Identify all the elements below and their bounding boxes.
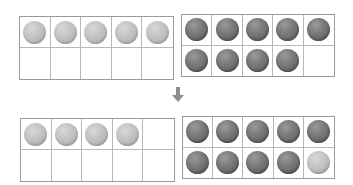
light-counter-icon	[115, 21, 138, 44]
arrow-down-icon	[172, 87, 184, 103]
dark-counter-icon	[276, 18, 299, 41]
frame-cell	[82, 119, 113, 150]
dark-counter-icon	[216, 18, 239, 41]
frame-cell	[212, 46, 242, 77]
dark-counter-icon	[186, 120, 209, 143]
frame-cell	[183, 117, 213, 148]
frame-cell	[243, 46, 273, 77]
frame-cell	[213, 117, 243, 148]
light-counter-icon	[23, 21, 46, 44]
dark-counter-icon	[276, 49, 299, 72]
frame-cell	[113, 119, 144, 150]
dark-counter-icon	[186, 151, 209, 174]
ten-frame-bottom-right	[182, 116, 335, 179]
frame-cell	[52, 119, 83, 150]
dark-counter-icon	[277, 151, 300, 174]
frame-cell	[274, 148, 304, 179]
frame-cell	[20, 48, 51, 79]
ten-frame-top-left	[19, 16, 174, 80]
frame-cell	[113, 150, 144, 181]
frame-cell	[243, 15, 273, 46]
frame-cell	[81, 48, 112, 79]
frame-cell	[81, 17, 112, 48]
frame-cell	[142, 48, 173, 79]
frame-cell	[304, 46, 334, 77]
light-counter-icon	[116, 123, 139, 146]
dark-counter-icon	[246, 18, 269, 41]
frame-cell	[304, 15, 334, 46]
frame-cell	[82, 150, 113, 181]
frame-cell	[142, 17, 173, 48]
frame-cell	[183, 148, 213, 179]
frame-cell	[213, 148, 243, 179]
dark-counter-icon	[216, 151, 239, 174]
frame-cell	[273, 15, 303, 46]
frame-cell	[243, 148, 273, 179]
dark-counter-icon	[246, 120, 269, 143]
frame-cell	[20, 17, 51, 48]
frame-cell	[21, 150, 52, 181]
frame-cell	[112, 48, 143, 79]
light-counter-icon	[85, 123, 108, 146]
light-counter-icon	[55, 123, 78, 146]
frame-cell	[182, 46, 212, 77]
dark-counter-icon	[185, 18, 208, 41]
light-counter-icon	[307, 151, 330, 174]
frame-cell	[304, 148, 334, 179]
ten-frame-top-right	[181, 14, 335, 77]
frame-cell	[212, 15, 242, 46]
ten-frame-bottom-left	[20, 118, 175, 182]
frame-cell	[182, 15, 212, 46]
frame-cell	[112, 17, 143, 48]
dark-counter-icon	[246, 49, 269, 72]
light-counter-icon	[84, 21, 107, 44]
frame-cell	[304, 117, 334, 148]
dark-counter-icon	[307, 18, 330, 41]
dark-counter-icon	[185, 49, 208, 72]
dark-counter-icon	[216, 49, 239, 72]
frame-cell	[273, 46, 303, 77]
frame-cell	[51, 17, 82, 48]
dark-counter-icon	[246, 151, 269, 174]
frame-cell	[243, 117, 273, 148]
light-counter-icon	[146, 21, 169, 44]
frame-cell	[274, 117, 304, 148]
frame-cell	[52, 150, 83, 181]
dark-counter-icon	[277, 120, 300, 143]
frame-cell	[51, 48, 82, 79]
light-counter-icon	[24, 123, 47, 146]
dark-counter-icon	[216, 120, 239, 143]
light-counter-icon	[54, 21, 77, 44]
frame-cell	[143, 150, 174, 181]
frame-cell	[21, 119, 52, 150]
frame-cell	[143, 119, 174, 150]
dark-counter-icon	[307, 120, 330, 143]
